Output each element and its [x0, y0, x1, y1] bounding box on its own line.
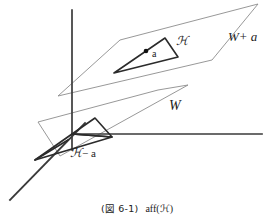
- label-point-a: a: [152, 49, 156, 59]
- label-upper-plane-w-plus-a: W+ a: [228, 30, 257, 43]
- upper-plane-w-plus-a: [58, 4, 258, 96]
- label-middle-plane-w: W: [169, 99, 181, 113]
- point-a-marker: [144, 49, 149, 54]
- label-lower-set-a-minus-a: ℋ− a: [70, 147, 96, 159]
- label-upper-set-script-a: ℋ: [176, 35, 188, 47]
- figure-container: W+ a W ℋ a ℋ− a (図 6-1)aff(ℋ): [0, 0, 274, 222]
- label-upper-plane-text: W+ a: [228, 29, 257, 44]
- upper-set-triangle: [114, 38, 178, 73]
- label-lower-set-text: − a: [82, 147, 96, 159]
- caption-expression: aff(ℋ): [145, 203, 173, 214]
- label-upper-set-text: ℋ: [176, 34, 188, 48]
- label-middle-plane-text: W: [169, 98, 181, 113]
- figure-caption: (図 6-1)aff(ℋ): [0, 203, 274, 215]
- label-point-a-text: a: [152, 48, 156, 59]
- caption-figure-number: (図 6-1): [101, 203, 138, 214]
- label-lower-set-prefix: ℋ: [70, 146, 82, 160]
